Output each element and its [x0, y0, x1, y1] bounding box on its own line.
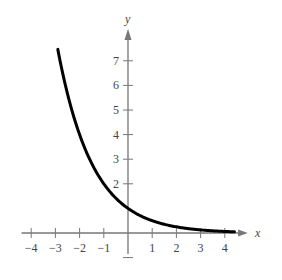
x-tick-label: 1	[149, 241, 155, 255]
x-axis-label: x	[254, 226, 261, 240]
exponential-graph: xy−4−3−2−11234234567	[0, 0, 282, 280]
y-tick-label: 3	[113, 152, 119, 166]
x-tick-label: −3	[49, 241, 62, 255]
x-tick-label: 2	[173, 241, 179, 255]
x-tick-label: −4	[25, 241, 38, 255]
y-axis-arrow-icon	[125, 29, 132, 40]
y-tick-label: 6	[113, 78, 119, 92]
y-tick-label: 5	[113, 103, 119, 117]
y-axis-label: y	[124, 12, 131, 26]
x-tick-label: 3	[198, 241, 204, 255]
x-axis-arrow-icon	[238, 230, 248, 237]
y-tick-label: 2	[113, 177, 119, 191]
x-tick-label: −2	[73, 241, 86, 255]
curve-line	[58, 49, 235, 231]
x-tick-label: −1	[97, 241, 110, 255]
y-tick-label: 4	[113, 128, 119, 142]
x-tick-label: 4	[222, 241, 228, 255]
y-tick-label: 7	[113, 54, 119, 68]
